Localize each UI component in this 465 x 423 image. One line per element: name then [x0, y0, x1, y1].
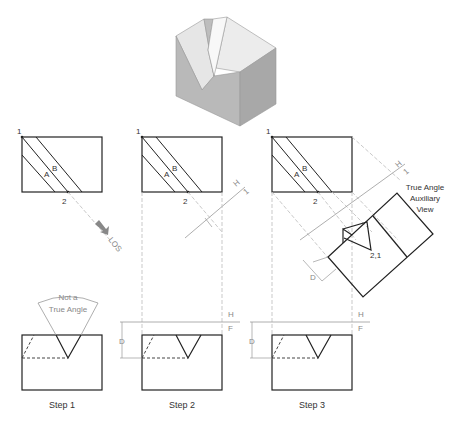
step3-top-view: 1 2 A B H 1 — [266, 127, 411, 335]
not-true-angle-line2: True Angle — [49, 305, 88, 314]
los-arrow-icon — [95, 220, 109, 235]
fold-h-label: H — [358, 310, 364, 319]
aux-title-line3: View — [416, 205, 433, 214]
fold-line-h1 — [185, 187, 245, 238]
not-true-angle-line1: Not a — [58, 293, 78, 302]
step1-caption: Step 1 — [49, 400, 75, 410]
step2-top-view: 1 2 A B H 1 — [136, 127, 251, 335]
surface-b-label: B — [172, 164, 177, 173]
fold-h-label: H — [232, 178, 242, 189]
surface-a-label: A — [44, 170, 50, 179]
depth-label: D — [119, 337, 125, 346]
step3-aux-view: D 2,1 True Angle Auxiliary View — [303, 183, 445, 297]
isometric-block — [176, 17, 276, 126]
fold-1-label: 1 — [402, 166, 412, 176]
step1-front-view: Not a True Angle Step 1 — [22, 293, 102, 410]
step1-top-view: 1 2 A B LOS — [17, 127, 124, 254]
aux-depth-label: D — [310, 273, 316, 282]
point-1-label: 1 — [17, 127, 22, 136]
los-label: LOS — [106, 236, 123, 254]
point-2-label: 2 — [183, 197, 188, 206]
depth-label: D — [249, 337, 255, 346]
step3-caption: Step 3 — [299, 400, 325, 410]
true-angle-diagram: 1 2 A B LOS Not a True Angle Step 1 1 2 … — [0, 0, 465, 423]
step2-caption: Step 2 — [169, 400, 195, 410]
fold-f-label: F — [358, 324, 363, 333]
point-1-label: 1 — [266, 127, 271, 136]
surface-a-label: A — [294, 170, 300, 179]
surface-b-label: B — [302, 164, 307, 173]
aux-title-line1: True Angle — [406, 183, 445, 192]
fold-h-label: H — [228, 310, 234, 319]
fold-1-label: 1 — [242, 186, 252, 196]
point-2-label: 2 — [62, 197, 67, 206]
point-2-label: 2 — [313, 197, 318, 206]
point-21-label: 2,1 — [370, 251, 382, 260]
surface-a-label: A — [164, 170, 170, 179]
point-1-label: 1 — [136, 127, 141, 136]
aux-title-line2: Auxiliary — [410, 194, 440, 203]
fold-f-label: F — [228, 324, 233, 333]
surface-b-label: B — [52, 164, 57, 173]
